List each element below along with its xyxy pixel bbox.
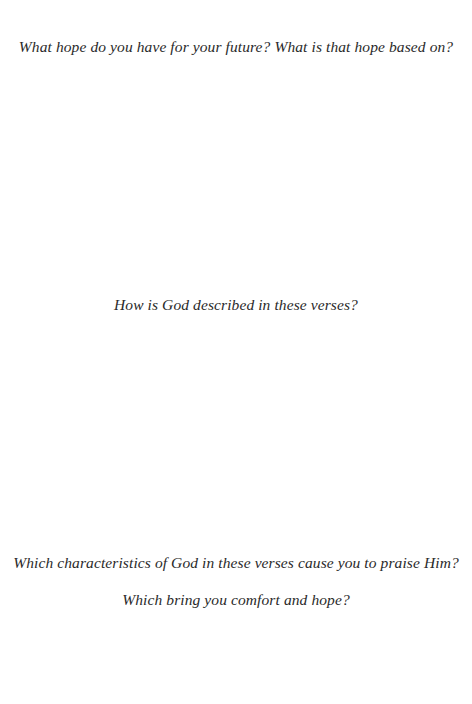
question-god-described: How is God described in these verses? (0, 295, 472, 315)
question-comfort-line: Which bring you comfort and hope? (0, 590, 472, 610)
question-future-hope: What hope do you have for your future? W… (0, 37, 472, 57)
question-praise-line: Which characteristics of God in these ve… (0, 553, 472, 573)
